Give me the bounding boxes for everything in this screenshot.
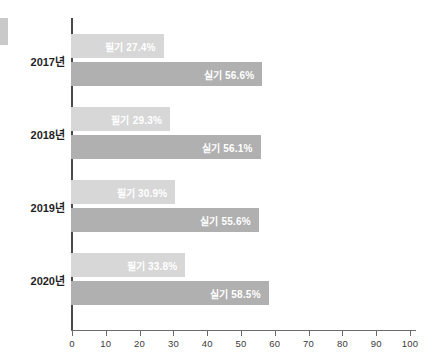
bar-value-label: 실기 56.1% <box>202 140 261 155</box>
x-tick-mark <box>342 331 343 336</box>
x-tick-mark <box>140 331 141 336</box>
x-tick-mark <box>72 331 73 336</box>
bar-value-label: 필기 27.4% <box>105 39 164 54</box>
bar-필기-2018년: 필기 29.3% <box>71 107 170 131</box>
bar-value-label: 실기 55.6% <box>200 213 259 228</box>
x-tick-label: 0 <box>57 338 87 349</box>
bar-실기-2018년: 실기 56.1% <box>71 135 261 159</box>
bar-value-label: 실기 58.5% <box>210 286 269 301</box>
bar-필기-2019년: 필기 30.9% <box>71 180 175 204</box>
x-tick-mark <box>376 331 377 336</box>
x-axis-line <box>71 330 416 331</box>
bar-필기-2020년: 필기 33.8% <box>71 253 185 277</box>
x-tick-label: 100 <box>395 338 425 349</box>
category-label-2018년: 2018년 <box>0 126 65 142</box>
bar-value-label: 필기 29.3% <box>111 112 170 127</box>
x-tick-label: 30 <box>158 338 188 349</box>
x-tick-label: 70 <box>294 338 324 349</box>
bar-실기-2019년: 실기 55.6% <box>71 208 259 232</box>
bar-필기-2017년: 필기 27.4% <box>71 34 164 58</box>
x-tick-mark <box>106 331 107 336</box>
x-tick-label: 10 <box>91 338 121 349</box>
bar-chart: 0102030405060708090100 2017년필기 27.4%실기 5… <box>0 0 438 364</box>
x-tick-mark <box>207 331 208 336</box>
x-tick-mark <box>309 331 310 336</box>
bar-value-label: 필기 33.8% <box>127 258 186 273</box>
category-label-2017년: 2017년 <box>0 53 65 69</box>
x-tick-mark <box>173 331 174 336</box>
bar-실기-2020년: 실기 58.5% <box>71 281 269 305</box>
x-tick-mark <box>410 331 411 336</box>
x-tick-label: 40 <box>192 338 222 349</box>
x-tick-mark <box>275 331 276 336</box>
bar-value-label: 필기 30.9% <box>117 185 176 200</box>
x-tick-label: 80 <box>327 338 357 349</box>
x-tick-label: 60 <box>260 338 290 349</box>
bar-실기-2017년: 실기 56.6% <box>71 62 262 86</box>
category-label-2019년: 2019년 <box>0 199 65 215</box>
x-tick-label: 20 <box>125 338 155 349</box>
category-label-2020년: 2020년 <box>0 272 65 288</box>
x-tick-label: 90 <box>361 338 391 349</box>
page-edge-artifact <box>0 18 8 45</box>
x-tick-label: 50 <box>226 338 256 349</box>
bar-value-label: 실기 56.6% <box>204 67 263 82</box>
x-tick-mark <box>241 331 242 336</box>
